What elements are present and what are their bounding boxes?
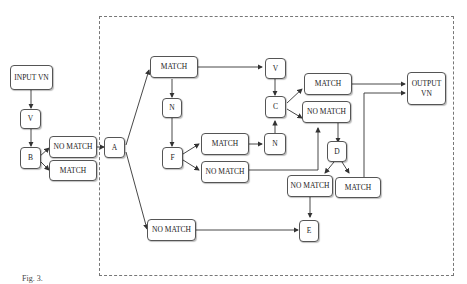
node-label: N [169,103,174,112]
node-label: MATCH [345,183,371,192]
node-label: MATCH [212,139,238,148]
node-label: A [112,143,117,152]
node-label: V [273,64,278,73]
node-label: F [170,153,174,162]
node-label: V [28,114,33,123]
node-label: NO MATCH [152,225,191,234]
node-label: B [28,153,33,162]
node-label: MATCH [60,166,86,175]
node-label: MATCH [161,62,187,71]
node-label: C [273,102,278,111]
node-a-no-match: NO MATCH [147,219,196,241]
node-output-vn: OUTPUT VN [407,72,446,105]
node-d-no-match: NO MATCH [287,175,333,197]
node-c-no-match: NO MATCH [302,101,351,123]
figure-caption: Fig. 3. [22,274,43,283]
node-label: D [334,147,339,156]
node-a: A [104,137,125,158]
node-n1: N [162,98,182,118]
node-label: MATCH [315,79,341,88]
node-a-match: MATCH [150,56,198,78]
node-label: E [307,226,312,235]
node-b: B [20,147,41,169]
node-d: D [327,141,347,162]
node-f-match: MATCH [201,133,249,155]
node-label: NO MATCH [206,167,245,176]
node-v1: V [20,109,41,129]
node-f: F [162,147,183,169]
node-label: N [272,139,277,148]
node-f-no-match: NO MATCH [201,161,249,183]
node-c: C [265,96,286,118]
flowchart: INPUT VN V B NO MATCH MATCH A MATCH NO M… [0,0,467,284]
node-label: NO MATCH [307,107,346,116]
node-input-vn: INPUT VN [10,65,53,90]
node-v2: V [265,58,286,79]
node-label-line1: OUTPUT [412,79,442,88]
node-d-match: MATCH [335,177,381,198]
node-b-no-match: NO MATCH [49,136,97,158]
node-c-match: MATCH [304,73,352,95]
node-label: INPUT VN [14,73,49,82]
node-n2: N [264,133,286,155]
node-label: NO MATCH [291,181,330,190]
node-label-line2: VN [421,89,432,98]
node-e: E [299,220,319,242]
node-label: NO MATCH [54,142,93,151]
node-b-match: MATCH [49,160,97,181]
